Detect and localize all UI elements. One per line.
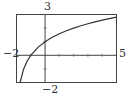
x-min-label: −2 <box>3 48 19 59</box>
chart-plot <box>0 0 129 97</box>
y-min-label: −2 <box>42 84 58 95</box>
function-curve <box>20 17 116 82</box>
y-max-label: 3 <box>44 1 51 12</box>
axis-ticks <box>31 28 102 69</box>
plot-frame <box>17 15 117 83</box>
axes <box>17 15 117 83</box>
x-max-label: 5 <box>119 48 126 59</box>
